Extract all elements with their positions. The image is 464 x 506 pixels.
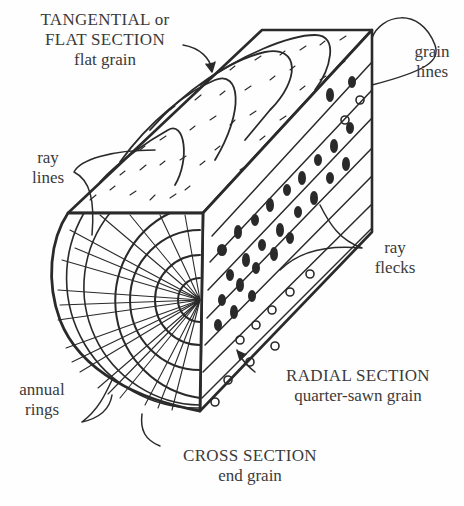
ray-flecks-label: ray flecks xyxy=(360,238,430,278)
ray-lines-label: ray lines xyxy=(18,148,78,188)
annual-rings-leader xyxy=(82,380,112,422)
cross-leader xyxy=(142,414,160,446)
tangential-section-label: TANGENTIAL or FLAT SECTION flat grain xyxy=(30,10,180,70)
radial-section-label: RADIAL SECTION quarter-sawn grain xyxy=(268,366,448,406)
annual-rings-label: annual rings xyxy=(10,380,74,420)
cross-section-label: CROSS SECTION end grain xyxy=(170,446,330,486)
grain-lines-label: grain lines xyxy=(400,42,464,82)
wood-sections-diagram: TANGENTIAL or FLAT SECTION flat grain gr… xyxy=(0,0,464,506)
